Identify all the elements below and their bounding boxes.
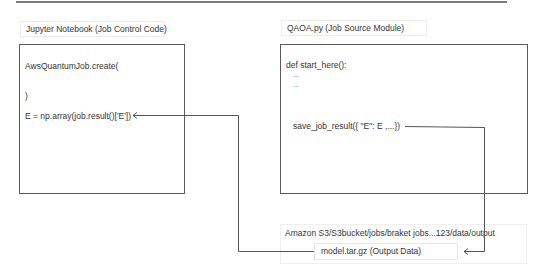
output-to-notebook-arrow <box>133 113 314 252</box>
save-to-output-arrow <box>405 127 485 255</box>
connector-arrows <box>0 0 547 277</box>
